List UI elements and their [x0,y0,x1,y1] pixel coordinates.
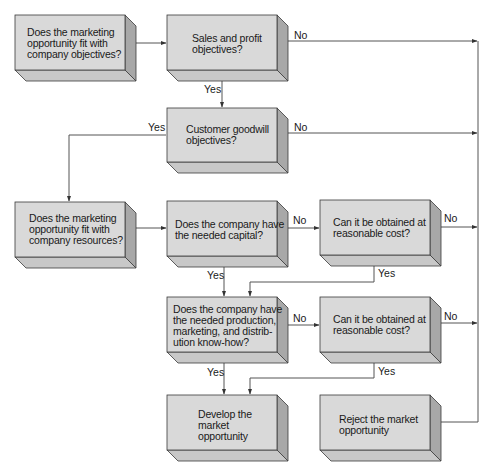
label-obtain-capital-yes: Yes [378,268,395,279]
label-knowhow-yes: Yes [207,367,224,378]
box-text-sales-profit: Sales and profit objectives? [192,33,262,55]
connector-goodwill-yes [69,135,166,201]
box-text-obtain-knowhow: Can it be obtained at reasonable cost? [333,314,426,336]
box-text-fit-objectives: Does the marketing opportunity fit with … [27,27,121,60]
box-text-needed-capital: Does the company have the needed capital… [175,219,284,241]
box-text-needed-knowhow: Does the company have the needed product… [173,304,282,348]
label-sales-yes: Yes [204,84,221,95]
box-text-obtain-capital: Can it be obtained at reasonable cost? [333,217,426,239]
label-sales-no: No [294,30,307,41]
label-goodwill-yes: Yes [148,122,165,133]
label-obtain-knowhow-no: No [444,311,457,322]
label-obtain-knowhow-yes: Yes [378,366,395,377]
label-capital-no: No [293,215,306,226]
box-text-reject: Reject the market opportunity [339,414,418,436]
label-capital-yes: Yes [207,270,224,281]
box-text-fit-resources: Does the marketing opportunity fit with … [29,213,123,246]
box-text-customer-goodwill: Customer goodwill objectives? [186,124,269,146]
box-text-develop: Develop the market opportunity [198,409,252,442]
label-goodwill-no: No [294,122,307,133]
label-obtain-capital-no: No [444,213,457,224]
label-knowhow-no: No [293,313,306,324]
